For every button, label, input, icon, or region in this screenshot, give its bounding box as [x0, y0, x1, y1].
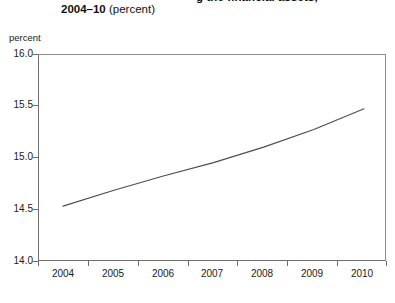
chart-title-units: (percent) [106, 3, 155, 15]
x-tick-mark [88, 261, 89, 266]
x-tick-label: 2006 [152, 268, 174, 279]
x-tick-mark [237, 261, 238, 266]
chart-title-block: g the financial assets, 2004–10 (percent… [0, 0, 395, 19]
chart-title-period: 2004–10 [61, 3, 106, 15]
x-tick-mark [287, 261, 288, 266]
y-tick-label: 14.5 [14, 204, 33, 214]
x-tick-mark [386, 261, 387, 266]
x-tick-mark [188, 261, 189, 266]
data-line-chart [39, 55, 387, 262]
x-tick-mark [38, 261, 39, 266]
x-tick-label: 2005 [102, 268, 124, 279]
plot-area [38, 54, 386, 261]
x-tick-label: 2009 [301, 268, 323, 279]
y-tick-label: 15.0 [14, 152, 33, 162]
chart-title-line-1: g the financial assets, [196, 0, 318, 3]
x-tick-label: 2004 [52, 268, 74, 279]
chart-title-line-2: 2004–10 (percent) [61, 3, 155, 15]
x-tick-mark [337, 261, 338, 266]
y-tick-label: 16.0 [14, 49, 33, 59]
x-tick-label: 2008 [251, 268, 273, 279]
x-tick-label: 2010 [351, 268, 373, 279]
x-tick-label: 2007 [201, 268, 223, 279]
y-axis: 16.0 15.5 15.0 14.5 14.0 [0, 0, 33, 303]
data-series-line [63, 109, 364, 206]
y-tick-label: 15.5 [14, 100, 33, 110]
x-tick-mark [138, 261, 139, 266]
y-tick-label: 14.0 [14, 256, 33, 266]
x-axis: 2004 2005 2006 2007 2008 2009 2010 [0, 268, 395, 288]
